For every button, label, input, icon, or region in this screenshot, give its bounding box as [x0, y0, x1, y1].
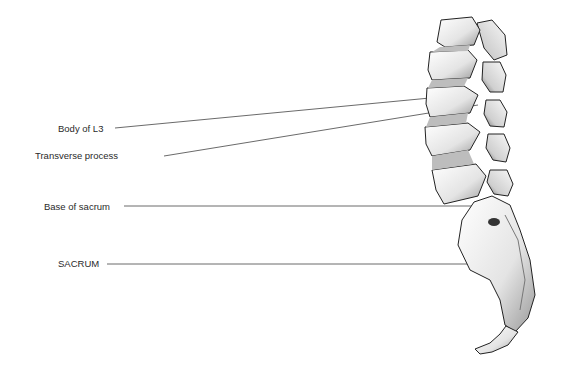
label-body-of-l3: Body of L3	[58, 124, 103, 134]
vertebrae	[425, 17, 535, 354]
spine-illustration	[0, 0, 565, 379]
label-base-of-sacrum: Base of sacrum	[44, 202, 110, 212]
label-sacrum: SACRUM	[58, 259, 99, 269]
label-transverse-process: Transverse process	[35, 151, 118, 161]
leader-body-of-l3	[115, 98, 430, 128]
